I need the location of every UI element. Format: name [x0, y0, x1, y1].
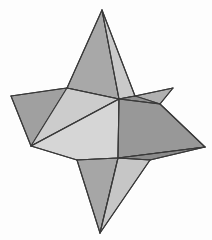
- polyhedron-figure: [0, 0, 212, 240]
- polyhedron-svg: [0, 0, 212, 240]
